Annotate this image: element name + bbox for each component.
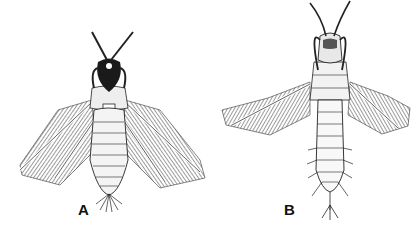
insect-a-illustration xyxy=(0,0,210,222)
panel-b: B xyxy=(210,0,415,222)
figure-caption xyxy=(0,229,415,235)
insect-b-illustration xyxy=(210,0,415,222)
panel-a: A xyxy=(0,0,210,222)
figure: A xyxy=(0,0,415,235)
panel-label-b: B xyxy=(284,202,295,217)
panel-label-a: A xyxy=(78,202,89,217)
